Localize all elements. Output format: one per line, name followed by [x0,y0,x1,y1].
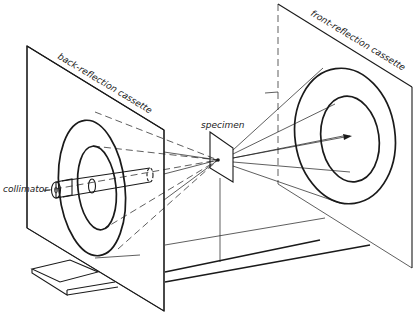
front-rays [233,68,350,203]
back-outer-ring [52,117,132,259]
diagram-canvas: back-reflection cassette front-reflectio… [0,0,417,318]
label-front-reflection-cassette: front-reflection cassette [309,8,408,73]
label-collimator: collimator [3,184,49,194]
base-rails [95,218,370,282]
base-block [32,260,118,295]
back-rays [93,112,218,249]
label-back-reflection-cassette: back-reflection cassette [56,51,154,116]
label-specimen: specimen [201,120,245,130]
specimen [210,132,233,262]
front-inner-ring [315,92,384,185]
